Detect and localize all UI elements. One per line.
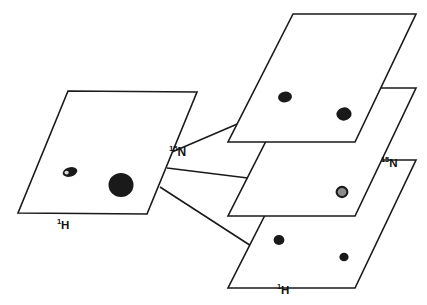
left-plane-n-axis-label: 15N bbox=[169, 145, 186, 158]
large-round-peak bbox=[109, 173, 134, 197]
nmr-planes-figure: 1H 15N 15N 1H bbox=[0, 0, 427, 305]
right-stack-h-axis-label: 1H bbox=[277, 283, 289, 296]
right-stack-n-axis-element: N bbox=[389, 157, 397, 169]
peak-c bbox=[274, 235, 285, 245]
peak-d bbox=[339, 253, 348, 262]
left-plane-n-axis-element: N bbox=[177, 145, 186, 159]
peak-ring bbox=[337, 187, 348, 197]
right-stack-n-axis-label: 15N bbox=[381, 156, 397, 169]
peak-ring-ring bbox=[337, 187, 348, 197]
small-blob-peak-highlight bbox=[65, 171, 69, 175]
left-plane-h-axis-element: H bbox=[61, 219, 69, 231]
left-plane-h-axis-label: 1H bbox=[57, 218, 69, 231]
right-stack-h-axis-element: H bbox=[281, 284, 289, 296]
figure-canvas bbox=[0, 0, 427, 305]
right-stack-n-axis-superscript: 15 bbox=[381, 155, 389, 164]
